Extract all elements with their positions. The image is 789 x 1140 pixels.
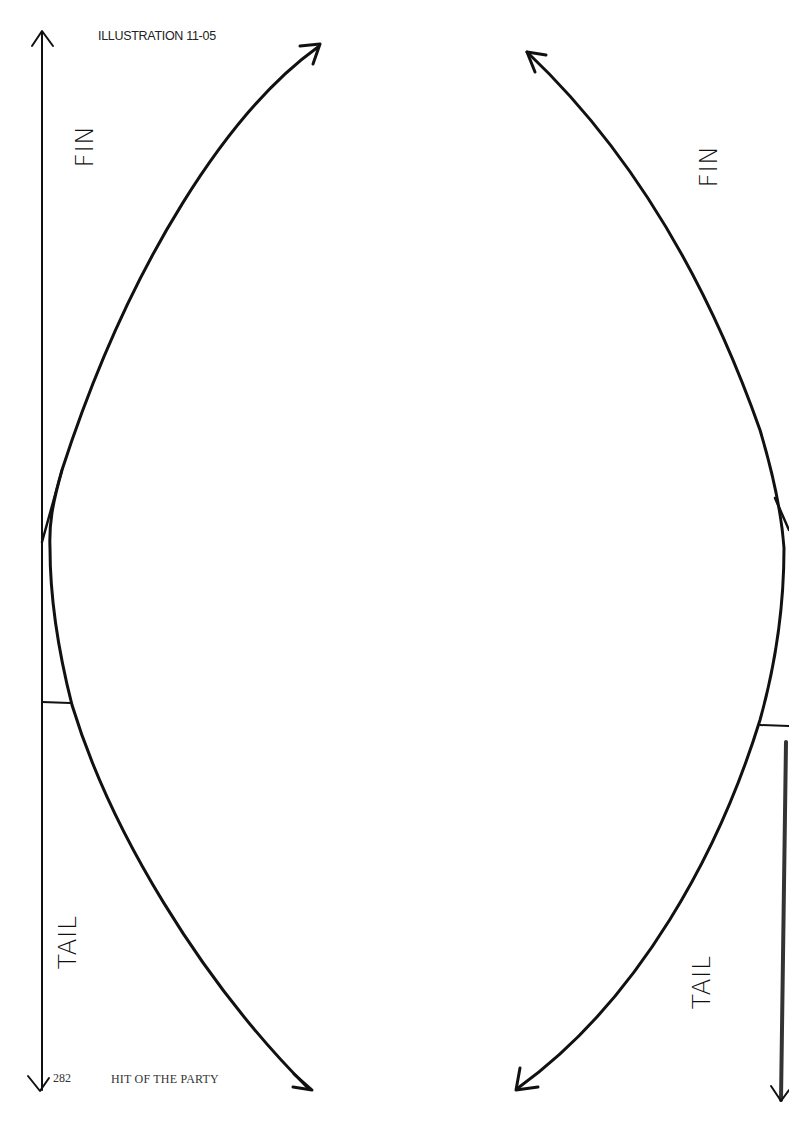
- left-curve-outline: [42, 44, 320, 1090]
- pattern-diagram: [0, 0, 789, 1140]
- book-page: ILLUSTRATION 11-05 FIN TAIL FIN TAIL 282…: [0, 0, 789, 1140]
- illustration-caption: ILLUSTRATION 11-05: [98, 29, 216, 43]
- tail-label-right: TAIL: [687, 956, 716, 1010]
- fin-label-right: FIN: [694, 146, 723, 188]
- fin-label-left: FIN: [70, 126, 99, 168]
- right-curve-outline: [516, 52, 789, 1090]
- tail-label-left: TAIL: [53, 916, 82, 970]
- right-axis-line: [771, 742, 789, 1101]
- running-title: HIT OF THE PARTY: [111, 1072, 219, 1087]
- page-number: 282: [53, 1071, 71, 1086]
